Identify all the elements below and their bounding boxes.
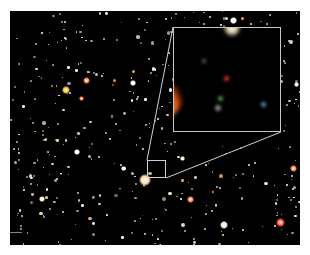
star xyxy=(62,77,63,78)
star xyxy=(21,215,23,217)
star xyxy=(193,244,194,245)
star xyxy=(276,199,278,201)
star xyxy=(119,130,121,132)
star xyxy=(291,179,292,180)
star xyxy=(34,98,36,100)
star xyxy=(281,229,282,230)
star xyxy=(159,108,161,110)
star xyxy=(129,91,131,93)
star xyxy=(294,103,296,105)
star xyxy=(193,12,194,13)
star xyxy=(157,238,159,240)
star xyxy=(46,188,48,190)
star xyxy=(132,191,133,192)
star xyxy=(145,124,147,126)
star xyxy=(138,18,139,19)
star xyxy=(113,79,116,82)
star xyxy=(133,111,135,113)
star xyxy=(203,23,205,25)
star xyxy=(67,66,69,68)
star xyxy=(275,208,276,209)
star xyxy=(276,215,278,217)
star xyxy=(149,127,151,129)
star xyxy=(77,192,79,194)
bright-source xyxy=(230,17,237,24)
star xyxy=(56,197,58,199)
star xyxy=(48,44,49,45)
star xyxy=(30,118,31,119)
star xyxy=(57,123,59,125)
star xyxy=(23,186,25,188)
star xyxy=(19,209,22,212)
star xyxy=(218,243,220,245)
star xyxy=(18,148,20,150)
star xyxy=(254,162,256,164)
star xyxy=(291,232,294,235)
star xyxy=(165,39,166,40)
star xyxy=(88,155,90,157)
star xyxy=(144,29,146,31)
star xyxy=(168,192,171,195)
star xyxy=(111,115,113,117)
inset-source xyxy=(217,95,224,102)
star xyxy=(76,31,77,32)
star xyxy=(79,31,82,34)
star xyxy=(155,69,157,71)
star xyxy=(298,201,300,203)
star xyxy=(191,188,193,190)
star xyxy=(294,215,297,218)
star xyxy=(33,162,35,164)
star xyxy=(220,24,221,25)
bright-source xyxy=(83,77,90,84)
star xyxy=(67,166,69,168)
star xyxy=(131,172,134,175)
star xyxy=(221,231,222,232)
star xyxy=(83,127,85,129)
star xyxy=(165,209,166,210)
star xyxy=(292,188,294,190)
star xyxy=(156,75,157,76)
star xyxy=(46,60,48,62)
star xyxy=(266,23,268,25)
star xyxy=(30,80,32,82)
star xyxy=(168,65,169,66)
star xyxy=(30,201,33,204)
star xyxy=(48,127,49,128)
star xyxy=(42,134,44,136)
star xyxy=(75,137,76,138)
star xyxy=(225,17,228,20)
star xyxy=(119,188,120,189)
star xyxy=(134,197,136,199)
star xyxy=(215,204,216,205)
star xyxy=(142,215,143,216)
star xyxy=(191,217,192,218)
star xyxy=(297,33,299,35)
star xyxy=(165,18,167,20)
star xyxy=(157,118,159,120)
star xyxy=(171,17,173,19)
star xyxy=(205,213,207,215)
star xyxy=(49,154,50,155)
star xyxy=(49,174,50,175)
star xyxy=(170,143,172,145)
star xyxy=(54,156,55,157)
star xyxy=(298,105,299,106)
star xyxy=(274,225,276,227)
star xyxy=(59,244,62,245)
star xyxy=(78,199,80,201)
star xyxy=(288,197,290,199)
star xyxy=(151,41,155,45)
star xyxy=(248,242,249,243)
star xyxy=(291,175,293,177)
star xyxy=(67,82,71,86)
star xyxy=(149,123,150,124)
star xyxy=(167,151,168,152)
star xyxy=(20,225,22,227)
star xyxy=(295,160,296,161)
star xyxy=(283,130,285,132)
star xyxy=(250,23,252,25)
inset-source xyxy=(223,75,230,82)
star xyxy=(41,32,42,33)
star xyxy=(240,147,242,149)
star xyxy=(103,73,104,74)
